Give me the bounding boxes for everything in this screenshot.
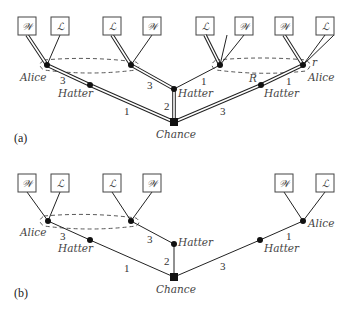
edge	[131, 192, 152, 221]
node-label-hatter: Hatter	[177, 236, 214, 248]
decision-node	[128, 62, 134, 68]
svg-text:ℒ: ℒ	[109, 178, 117, 189]
leaf-box-b3: ℒ	[103, 174, 121, 192]
leaf-box-a6: 𝒲	[235, 17, 253, 35]
chance-node	[170, 118, 178, 126]
panel-a: 𝒲 ℒ ℒ 𝒲 ℒ 𝒲 𝒲 ℒ Alice Hatter Hatter Chan…	[14, 17, 334, 145]
edge-label: 1	[124, 105, 130, 117]
edge	[48, 192, 60, 221]
decision-node	[44, 62, 50, 68]
decision-node	[300, 62, 306, 68]
strategy-label: r	[312, 56, 318, 68]
decision-node	[171, 86, 177, 92]
decision-node	[257, 237, 263, 243]
panel-label: (a)	[14, 131, 27, 145]
node-label-hatter: Hatter	[177, 87, 214, 99]
edge-label: 1	[286, 75, 292, 87]
information-set-left	[40, 58, 139, 73]
node-label-alice: Alice	[19, 226, 46, 238]
leaf-box-b2: ℒ	[51, 174, 69, 192]
edge	[284, 192, 303, 221]
information-set-right	[212, 58, 310, 73]
leaf-box-b5: 𝒲	[275, 174, 293, 192]
decision-node	[171, 241, 177, 247]
panel-b: 𝒲 ℒ ℒ 𝒲 𝒲 ℒ Alice Hatter Hatter Chance H…	[14, 174, 334, 300]
edge	[131, 35, 152, 65]
edge	[27, 192, 48, 221]
edge-label: 2	[164, 100, 170, 112]
edge	[131, 221, 174, 277]
node-label-chance: Chance	[156, 128, 196, 140]
leaf-box-a1: 𝒲	[18, 17, 36, 35]
leaf-box-a8: ℒ	[316, 17, 334, 35]
decision-node	[300, 218, 306, 224]
leaf-box-a7: 𝒲	[275, 17, 293, 35]
edge-label: 1	[124, 262, 130, 274]
node-label-hatter: Hatter	[263, 242, 300, 254]
leaf-box-b6: ℒ	[316, 174, 334, 192]
edge-label: 3	[147, 79, 153, 91]
leaf-box-a5: ℒ	[196, 17, 214, 35]
node-label-chance: Chance	[156, 283, 196, 295]
node-label-alice: Alice	[307, 217, 334, 229]
node-label-hatter: Hatter	[57, 87, 94, 99]
svg-text:ℒ: ℒ	[57, 178, 65, 189]
information-set-left	[40, 214, 139, 229]
edge-label: 1	[286, 230, 292, 242]
decision-node	[45, 218, 51, 224]
edge-label: 3	[220, 105, 226, 117]
svg-text:ℒ: ℒ	[322, 178, 330, 189]
edge-label: 3	[220, 260, 226, 272]
edge	[303, 35, 334, 65]
leaf-box-a2: ℒ	[51, 17, 69, 35]
node-label-alice: Alice	[19, 71, 46, 83]
svg-text:ℒ: ℒ	[57, 21, 65, 32]
edge-label: 3	[147, 233, 153, 245]
node-label-alice: Alice	[307, 71, 334, 83]
edge-label: 3	[60, 230, 66, 242]
decision-node	[128, 218, 134, 224]
leaf-box-a4: 𝒲	[143, 17, 161, 35]
node-label-hatter: Hatter	[57, 242, 94, 254]
leaf-box-a3: ℒ	[103, 17, 121, 35]
edge	[174, 65, 220, 89]
decision-node	[217, 62, 223, 68]
edge-label: 2	[164, 255, 170, 267]
game-tree-figure: 𝒲 ℒ ℒ 𝒲 ℒ 𝒲 𝒲 ℒ Alice Hatter Hatter Chan…	[0, 0, 352, 312]
leaf-box-b4: 𝒲	[143, 174, 161, 192]
edge-label: 1	[201, 75, 207, 87]
leaf-box-b1: 𝒲	[18, 174, 36, 192]
edge-label: 3	[60, 74, 66, 86]
strategy-label: R	[248, 72, 257, 84]
node-label-hatter: Hatter	[263, 87, 300, 99]
svg-text:ℒ: ℒ	[202, 21, 210, 32]
svg-text:ℒ: ℒ	[109, 21, 117, 32]
edge	[47, 35, 60, 65]
chance-node	[170, 273, 178, 281]
panel-label: (b)	[14, 286, 28, 300]
svg-text:ℒ: ℒ	[322, 21, 330, 32]
